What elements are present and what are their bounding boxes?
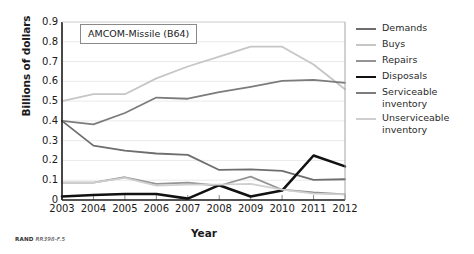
legend-swatch-icon	[356, 76, 376, 78]
legend-swatch-icon	[356, 28, 376, 30]
legend-swatch-icon	[356, 118, 376, 120]
legend-swatch-icon	[356, 60, 376, 62]
legend-item-repairs[interactable]: Repairs	[356, 54, 474, 67]
legend-label: Disposals	[382, 70, 427, 82]
legend-label: Repairs	[382, 54, 417, 66]
series-line-demands	[62, 121, 345, 180]
series-line-serviceable-inventory	[62, 80, 345, 125]
legend-item-serviceable-inventory[interactable]: Serviceable inventory	[356, 86, 474, 109]
figure-credit: RAND RR398-F.5	[15, 236, 65, 242]
legend-item-demands[interactable]: Demands	[356, 22, 474, 35]
legend-label: Serviceable inventory	[382, 86, 474, 109]
x-tick-label: 2012	[325, 203, 365, 214]
legend-swatch-icon	[356, 44, 376, 46]
legend-item-unserviceable-inventory[interactable]: Unserviceable inventory	[356, 112, 474, 135]
legend-label: Buys	[382, 38, 405, 50]
x-axis-title: Year	[62, 227, 346, 239]
chart-legend: DemandsBuysRepairsDisposalsServiceable i…	[356, 22, 474, 138]
legend-label: Unserviceable inventory	[382, 112, 474, 135]
credit-id: RR398-F.5	[36, 236, 66, 242]
series-line-buys	[62, 47, 345, 101]
legend-item-disposals[interactable]: Disposals	[356, 70, 474, 83]
figure-container: 0.90.80.70.60.50.40.30.20.10 Billions of…	[0, 0, 474, 254]
panel-title-box: AMCOM-Missile (B64)	[80, 24, 197, 44]
credit-prefix: RAND	[15, 236, 34, 242]
legend-swatch-icon	[356, 92, 376, 94]
legend-label: Demands	[382, 22, 427, 34]
legend-item-buys[interactable]: Buys	[356, 38, 474, 51]
